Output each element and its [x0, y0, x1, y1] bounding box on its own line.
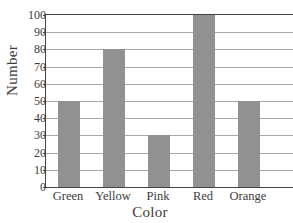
bar-slot [228, 15, 270, 187]
bar-orange [238, 101, 260, 187]
bars-group [46, 15, 293, 187]
bar-slot [183, 15, 225, 187]
y-tick-label: 100 [20, 9, 46, 21]
y-tick-label: 50 [20, 95, 46, 107]
bar-yellow [103, 49, 125, 187]
plot-area: 0102030405060708090100 [45, 14, 293, 188]
bar-slot [93, 15, 135, 187]
x-axis-title: Color [45, 204, 255, 221]
bar-slot [48, 15, 90, 187]
y-axis-title: Number [4, 31, 21, 111]
chart-title [60, 0, 240, 5]
y-tick-label: 90 [20, 26, 46, 38]
bar-chart-figure: Number 0102030405060708090100 GreenYello… [0, 0, 293, 223]
bar-slot [138, 15, 180, 187]
bar-pink [148, 135, 170, 187]
bar-green [58, 101, 80, 187]
y-tick-label: 10 [20, 164, 46, 176]
y-tick-label: 20 [20, 147, 46, 159]
y-tick-label: 80 [20, 43, 46, 55]
x-tick-label-orange: Orange [218, 190, 278, 203]
y-tick-label: 40 [20, 112, 46, 124]
bar-red [193, 15, 215, 187]
y-tick-label: 30 [20, 129, 46, 141]
y-tick-label: 60 [20, 78, 46, 90]
y-tick-label: 70 [20, 61, 46, 73]
